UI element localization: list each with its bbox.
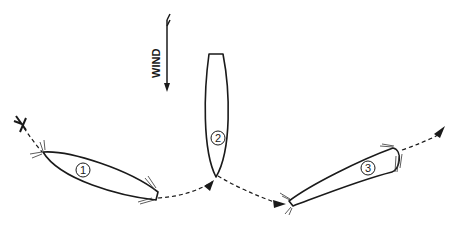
path-arrowhead-icon [204, 180, 214, 191]
path-boat3-exit [402, 134, 440, 150]
path-boat2-to-boat3 [218, 176, 280, 204]
boat-3-hull [289, 148, 399, 206]
wind-arrowhead-icon [164, 83, 170, 92]
boat-1-luffing-sail [30, 140, 45, 158]
boat-1-number: 1 [80, 164, 86, 176]
boat-1: 1 [30, 140, 158, 204]
wind-indicator: WIND [150, 14, 170, 92]
boat-1-hull [43, 152, 158, 200]
boat-2: 2 [205, 54, 228, 177]
wind-label: WIND [150, 49, 162, 78]
start-marker [14, 116, 26, 132]
boat-2-hull [205, 54, 228, 177]
wind-arrow-feathers [167, 14, 170, 26]
path-arrowhead-icon [273, 200, 286, 208]
boat-2-number: 2 [215, 132, 221, 144]
sailing-diagram: WIND 1 2 3 [0, 0, 456, 227]
path-start-to-boat1 [24, 128, 42, 152]
boat-3-number: 3 [365, 162, 371, 174]
boat-3: 3 [280, 144, 402, 215]
path-boat1-to-boat2 [158, 182, 212, 198]
x-mark-icon [14, 116, 26, 132]
